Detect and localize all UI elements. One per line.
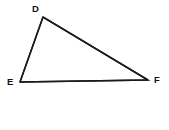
vertex-label-d: D [32,4,39,14]
vertex-label-e: E [7,77,14,87]
geometry-figure-canvas: D E F [0,0,169,130]
vertex-label-f: F [154,75,160,85]
triangle-edge-ef [20,80,148,82]
triangle-edge-fd [43,17,148,80]
triangle-svg [0,0,169,130]
triangle-edge-de [20,17,43,82]
